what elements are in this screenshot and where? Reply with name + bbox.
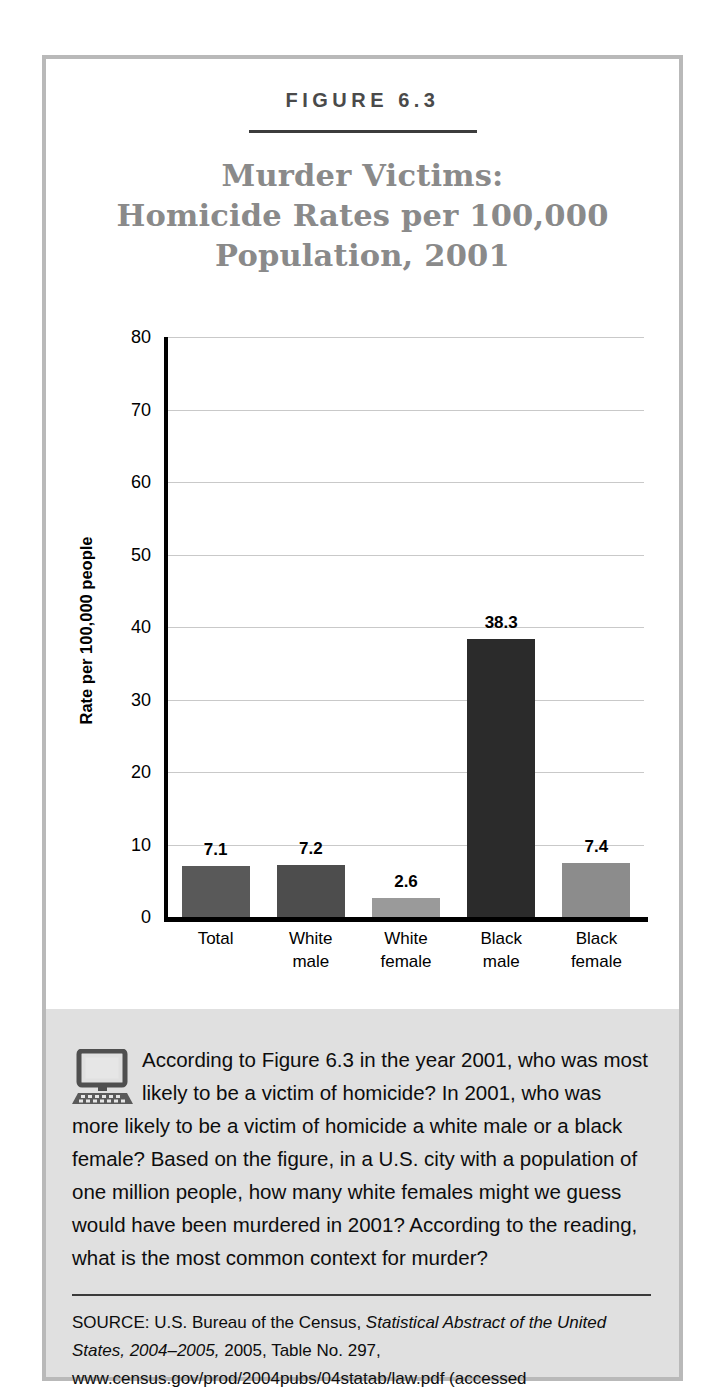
figure-header-divider — [249, 130, 477, 133]
y-axis-tick-label: 40 — [131, 617, 151, 638]
computer-icon — [72, 1049, 134, 1105]
x-axis-tick-label: Whitefemale — [358, 927, 453, 973]
figure-title: Murder Victims: Homicide Rates per 100,0… — [74, 155, 651, 275]
figure-label: FIGURE 6.3 — [46, 89, 679, 112]
bar-item: 38.3 — [454, 337, 549, 917]
x-axis-labels: TotalWhitemaleWhitefemaleBlackmaleBlackf… — [168, 927, 644, 973]
y-axis-title: Rate per 100,000 people — [77, 491, 96, 771]
question-text-block: According to Figure 6.3 in the year 2001… — [72, 1043, 651, 1274]
figure-title-line-2: Homicide Rates per 100,000 — [74, 195, 651, 235]
y-axis-tick-label: 80 — [131, 327, 151, 348]
question-panel: According to Figure 6.3 in the year 2001… — [46, 1009, 679, 1377]
x-axis-tick-label: Total — [168, 927, 263, 973]
bar-rect — [182, 866, 250, 917]
x-axis-tick-label: Whitemale — [263, 927, 358, 973]
source-citation: SOURCE: U.S. Bureau of the Census, Stati… — [72, 1309, 651, 1391]
bar-group: 7.17.22.638.37.4 — [168, 337, 644, 917]
bar-value-label: 7.4 — [549, 837, 644, 857]
bar-rect — [372, 898, 440, 917]
bar-value-label: 2.6 — [358, 872, 453, 892]
y-axis-tick-label: 50 — [131, 544, 151, 565]
x-axis-line — [164, 917, 648, 922]
source-divider — [72, 1294, 651, 1296]
bar-rect — [277, 865, 345, 917]
figure-header: FIGURE 6.3 Murder Victims: Homicide Rate… — [46, 59, 679, 275]
bar-item: 7.2 — [263, 337, 358, 917]
bar-value-label: 7.2 — [263, 839, 358, 859]
y-axis-tick-label: 0 — [141, 907, 151, 928]
bar-chart: Rate per 100,000 people 0102030405060708… — [46, 325, 679, 1009]
y-axis-tick-label: 70 — [131, 399, 151, 420]
y-axis-tick-label: 20 — [131, 762, 151, 783]
bar-rect — [562, 863, 630, 917]
x-axis-tick-label: Blackfemale — [549, 927, 644, 973]
y-axis-tick-label: 10 — [131, 834, 151, 855]
source-prefix: SOURCE: U.S. Bureau of the Census, — [72, 1313, 366, 1332]
bar-item: 7.4 — [549, 337, 644, 917]
y-axis-tick-label: 30 — [131, 689, 151, 710]
bar-item: 2.6 — [358, 337, 453, 917]
y-axis-tick-label: 60 — [131, 472, 151, 493]
figure-box: FIGURE 6.3 Murder Victims: Homicide Rate… — [42, 55, 683, 1381]
figure-title-line-1: Murder Victims: — [74, 155, 651, 195]
bar-value-label: 7.1 — [168, 840, 263, 860]
x-axis-tick-label: Blackmale — [454, 927, 549, 973]
bar-rect — [467, 639, 535, 917]
bar-item: 7.1 — [168, 337, 263, 917]
figure-title-line-3: Population, 2001 — [74, 235, 651, 275]
bar-value-label: 38.3 — [454, 613, 549, 633]
question-text: According to Figure 6.3 in the year 2001… — [72, 1048, 648, 1269]
